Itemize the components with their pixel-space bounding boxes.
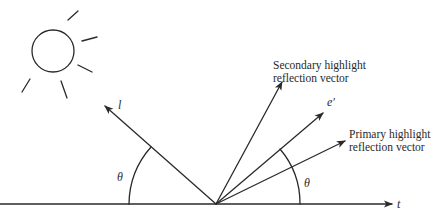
primary-caption-line2: reflection vector	[349, 141, 425, 153]
sun-icon	[22, 11, 97, 98]
reflection-diagram: t l Secondary highlight reflection vecto…	[0, 0, 446, 219]
light-vector-label: l	[118, 98, 122, 112]
primary-caption-line1: Primary highlight	[349, 128, 431, 141]
eye-prime-label: e′	[327, 95, 335, 109]
angle-arc-left	[129, 147, 151, 204]
angle-arc-right	[280, 149, 300, 204]
tangent-label: t	[397, 197, 401, 211]
secondary-caption-line1: Secondary highlight	[273, 59, 367, 72]
secondary-caption-line2: reflection vector	[273, 72, 349, 84]
light-vector-arrow	[105, 106, 216, 204]
eye-prime-arrow	[216, 113, 323, 204]
secondary-reflection-arrow	[216, 82, 282, 204]
theta-left-label: θ	[117, 170, 123, 184]
theta-right-label: θ	[304, 176, 310, 190]
